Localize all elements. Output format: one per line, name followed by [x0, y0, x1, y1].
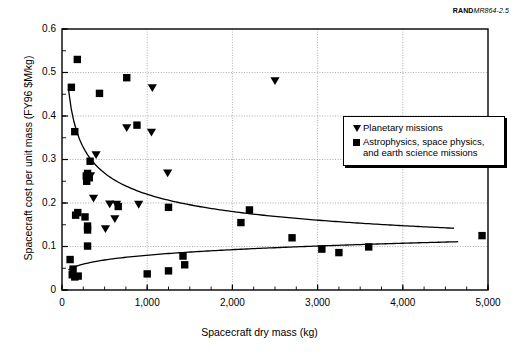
- legend-label-astrophysics: Astrophysics, space physics, and earth s…: [363, 136, 498, 159]
- x-tick-label: 3,000: [293, 297, 343, 308]
- chart-legend: Planetary missions Astrophysics, space p…: [343, 116, 505, 166]
- triangle-down-icon: [350, 122, 363, 132]
- x-tick-label: 5,000: [463, 297, 513, 308]
- legend-item-astrophysics: Astrophysics, space physics, and earth s…: [350, 136, 498, 159]
- x-tick-label: 2,000: [207, 297, 257, 308]
- square-icon: [350, 136, 363, 146]
- y-axis-title: Spacecraft cost per unit mass (FY96 $M/k…: [22, 33, 34, 283]
- x-axis-title: Spacecraft dry mass (kg): [0, 326, 519, 338]
- series-astrophysics-markers: [66, 56, 485, 281]
- x-tick-label: 4,000: [378, 297, 428, 308]
- legend-item-planetary: Planetary missions: [350, 122, 498, 134]
- legend-label-planetary: Planetary missions: [363, 122, 443, 134]
- y-tick-label: 0.6: [26, 23, 56, 34]
- x-tick-label: 1,000: [122, 297, 172, 308]
- x-tick-label: 0: [37, 297, 87, 308]
- y-tick-label: 0: [26, 284, 56, 295]
